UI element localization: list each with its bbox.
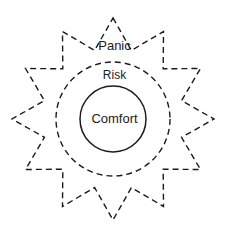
- comfort-zone-diagram: Panic Risk Comfort: [0, 0, 229, 243]
- comfort-zone-label: Comfort: [0, 112, 229, 125]
- panic-zone-label: Panic: [0, 39, 229, 52]
- risk-zone-label: Risk: [0, 69, 229, 81]
